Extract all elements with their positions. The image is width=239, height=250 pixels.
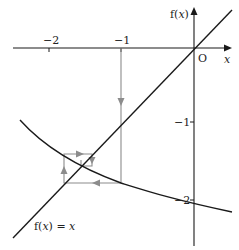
- y-axis-arrow-icon: [191, 7, 198, 15]
- arrow-down-icon: [118, 98, 125, 106]
- y-axis-label: f(x): [170, 8, 189, 21]
- origin-label: O: [198, 52, 207, 65]
- cobweb-arrows: [61, 98, 125, 187]
- x-axis-arrow-icon: [224, 45, 232, 52]
- y-axis: [190, 7, 198, 246]
- x-tick-label--2: −2: [43, 34, 59, 47]
- identity-line-label: f(x) = x: [34, 220, 76, 233]
- y-tick-label--2: −2: [174, 194, 190, 207]
- arrow-right-icon: [76, 151, 84, 158]
- x-tick-label--1: −1: [114, 34, 130, 47]
- arrow-up-icon: [61, 166, 68, 174]
- x-axis-label: x: [224, 53, 231, 66]
- arrow-left-icon: [92, 180, 100, 187]
- cobweb-diagram: f(x) x O −2 −1 −1 −2 f(x) = x: [0, 0, 239, 250]
- y-tick-label--1: −1: [174, 116, 190, 129]
